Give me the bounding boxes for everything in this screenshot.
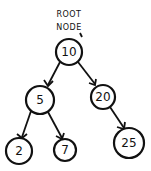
tree-diagram: ROOT NODE 10 5 20 2 7 <box>0 0 151 171</box>
svg-text:5: 5 <box>36 93 44 107</box>
tree-node-25: 25 <box>114 128 144 158</box>
svg-text:20: 20 <box>95 90 110 104</box>
edge-5-2 <box>17 111 31 138</box>
edge-10-5 <box>44 62 60 86</box>
edge-20-25 <box>110 107 125 129</box>
edge-10-20 <box>78 62 96 85</box>
root-pointer-icon <box>80 33 82 37</box>
tree-node-5: 5 <box>26 86 54 114</box>
svg-text:25: 25 <box>121 136 136 150</box>
tree-node-2: 2 <box>6 138 32 164</box>
tree-node-10: 10 <box>56 39 82 65</box>
tree-node-20: 20 <box>91 85 115 109</box>
tree-node-7: 7 <box>54 139 76 161</box>
root-label-line2: NODE <box>56 23 82 32</box>
svg-text:10: 10 <box>61 45 76 59</box>
svg-text:2: 2 <box>15 144 23 158</box>
edge-5-7 <box>48 112 64 139</box>
svg-text:7: 7 <box>61 143 69 157</box>
root-label-line1: ROOT <box>56 10 81 19</box>
